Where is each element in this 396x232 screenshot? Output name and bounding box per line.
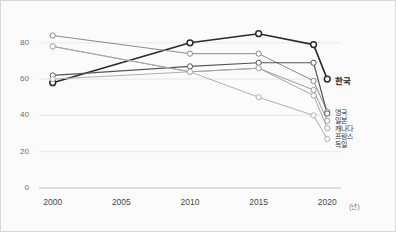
chart-frame: 020406080 20002005201020152020 (년) 한국영국일…	[0, 0, 396, 232]
data-point	[311, 87, 316, 92]
data-point	[325, 136, 330, 141]
series-markers	[50, 31, 330, 142]
x-axis-tick-label: 2005	[99, 197, 143, 207]
data-point	[324, 76, 330, 82]
data-point	[256, 31, 262, 37]
data-point	[311, 78, 316, 83]
x-axis-tick-label: 2010	[168, 197, 212, 207]
y-axis-tick-label: 20	[9, 147, 29, 156]
x-axis-tick-label: 2015	[237, 197, 281, 207]
data-point	[256, 60, 261, 65]
data-point	[311, 93, 316, 98]
series-line-3	[53, 46, 328, 120]
legend-label-5: 독일	[335, 139, 347, 149]
data-point	[256, 66, 261, 71]
series-lines	[53, 34, 328, 139]
data-point	[50, 76, 55, 81]
data-point	[50, 33, 55, 38]
data-point	[187, 69, 192, 74]
data-point	[325, 118, 330, 123]
series-line-4	[53, 46, 328, 128]
data-point	[325, 111, 330, 116]
data-point	[311, 60, 316, 65]
data-point	[325, 125, 330, 130]
data-point	[256, 51, 261, 56]
data-point	[187, 64, 192, 69]
data-point	[311, 113, 316, 118]
data-point	[187, 40, 193, 46]
data-point	[256, 95, 261, 100]
x-axis-tick-label: 2000	[31, 197, 75, 207]
y-axis-tick-label: 60	[9, 74, 29, 83]
y-axis-tick-label: 40	[9, 110, 29, 119]
x-axis-tick-label: 2020	[305, 197, 349, 207]
x-axis-unit-label: (년)	[349, 201, 359, 211]
y-axis-tick-label: 80	[9, 38, 29, 47]
legend-label-0: 한국	[335, 74, 351, 86]
y-axis-tick-label: 0	[9, 183, 29, 192]
data-point	[50, 44, 55, 49]
data-point	[311, 42, 317, 48]
data-point	[187, 51, 192, 56]
